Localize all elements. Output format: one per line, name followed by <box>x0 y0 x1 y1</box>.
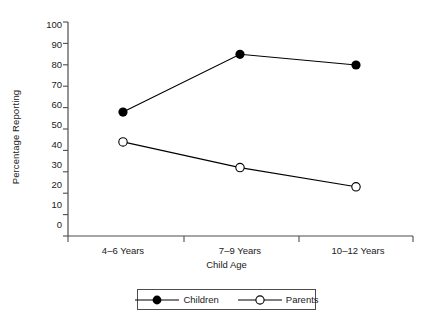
y-tick-marks <box>63 22 68 236</box>
plot-svg <box>0 0 429 250</box>
legend-entry-parents: Parents <box>237 294 319 306</box>
legend-entry-children: Children <box>134 294 218 306</box>
x-axis-title: Child Age <box>0 259 429 270</box>
data-point-children-7-9-years <box>235 50 244 59</box>
plot-area <box>0 0 429 250</box>
chart-legend: Children Parents <box>137 289 316 310</box>
data-point-children-4-6-years <box>118 108 127 117</box>
legend-marker-filled-circle-icon <box>134 294 180 306</box>
x-tick-label-10-12-years: 10–12 Years <box>313 246 403 256</box>
data-point-children-10-12-years <box>351 60 360 69</box>
legend-label-parents: Parents <box>286 294 319 305</box>
x-tick-label-4-6-years: 4–6 Years <box>83 246 163 256</box>
data-point-parents-7-9-years <box>236 163 244 171</box>
data-point-parents-4-6-years <box>119 138 127 146</box>
chart-figure: Percentage Reporting 100 90 80 70 60 50 … <box>0 0 429 324</box>
data-point-parents-10-12-years <box>352 183 360 191</box>
series-line-children <box>123 54 356 112</box>
legend-marker-open-circle-icon <box>237 294 283 306</box>
x-tick-marks <box>68 236 413 242</box>
x-tick-label-7-9-years: 7–9 Years <box>200 246 280 256</box>
x-axis-title-label: Child Age <box>182 259 247 270</box>
legend-label-children: Children <box>183 294 218 305</box>
